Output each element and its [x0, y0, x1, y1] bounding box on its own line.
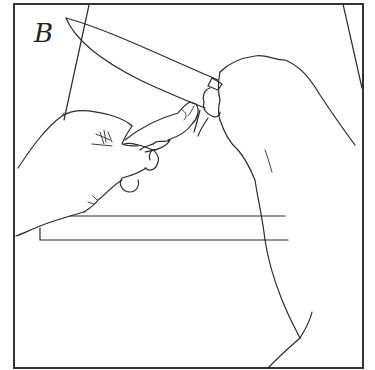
illustration-drawing [0, 0, 375, 370]
cutting-board [40, 4, 362, 240]
knife [66, 18, 222, 108]
illustration-panel: B [0, 0, 375, 370]
right-hand [194, 56, 355, 368]
panel-frame [14, 4, 363, 368]
panel-label: B [34, 20, 53, 46]
left-hand [16, 111, 158, 236]
